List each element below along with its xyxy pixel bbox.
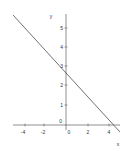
data-line	[13, 15, 120, 132]
x-tick-label: -2	[41, 129, 46, 135]
y-tick-label: 1	[60, 102, 63, 108]
x-tick-label: 0	[68, 129, 71, 135]
x-tick-label: -4	[21, 129, 26, 135]
y-tick-label: 5	[60, 25, 63, 31]
y-axis-label: y	[50, 13, 53, 19]
y-tick-label: 4	[60, 44, 63, 50]
x-tick-label: 4	[108, 129, 111, 135]
line-chart: -4 -2 0 2 4 0 1 2 3 4 5 y x	[0, 0, 133, 151]
x-axis-label: x	[117, 141, 120, 147]
x-tick-label: 2	[87, 129, 90, 135]
y-tick-label: 0	[59, 118, 62, 124]
y-tick-label: 2	[60, 82, 63, 88]
